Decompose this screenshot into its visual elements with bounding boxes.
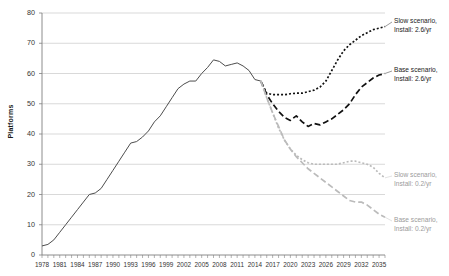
y-tick-label-30: 30 — [13, 159, 35, 168]
series-line-3 — [261, 81, 385, 178]
series-line-2 — [261, 74, 385, 127]
annotation-leader-0 — [385, 22, 392, 27]
annotation-leader-3 — [385, 217, 392, 221]
annotation-slow-02: Slow scenario,Install: 0.2/yr — [394, 170, 437, 189]
annotation-slow-26: Slow scenario,Install: 2.6/yr — [394, 16, 437, 35]
annotation-base-26-line1: Base scenario, — [394, 65, 438, 74]
y-tick-label-40: 40 — [13, 129, 35, 138]
annotation-base-26-line2: Install: 2.6/yr — [394, 74, 438, 83]
x-tick-label-2035: 2035 — [364, 261, 394, 268]
annotation-leader-2 — [385, 176, 392, 178]
y-tick-label-70: 70 — [13, 38, 35, 47]
y-tick-label-10: 10 — [13, 220, 35, 229]
y-tick-label-60: 60 — [13, 69, 35, 78]
annotation-slow-02-line2: Install: 0.2/yr — [394, 179, 437, 188]
annotation-slow-26-line2: Install: 2.6/yr — [394, 25, 437, 34]
y-tick-label-50: 50 — [13, 99, 35, 108]
annotation-slow-26-line1: Slow scenario, — [394, 16, 437, 25]
series-line-4 — [261, 81, 385, 217]
series-line-1 — [261, 27, 385, 95]
annotation-slow-02-line1: Slow scenario, — [394, 170, 437, 179]
annotation-leader-1 — [385, 71, 392, 74]
annotation-base-02-line1: Base scenario, — [394, 215, 438, 224]
series-line-0 — [42, 60, 261, 246]
chart-canvas — [0, 0, 449, 276]
annotation-base-02-line2: Install: 0.2/yr — [394, 224, 438, 233]
platforms-forecast-chart: Platforms 01020304050607080 197819811984… — [0, 0, 449, 276]
y-tick-label-80: 80 — [13, 8, 35, 17]
annotation-base-26: Base scenario,Install: 2.6/yr — [394, 65, 438, 84]
y-tick-label-20: 20 — [13, 190, 35, 199]
annotation-base-02: Base scenario,Install: 0.2/yr — [394, 215, 438, 234]
y-tick-label-0: 0 — [13, 250, 35, 259]
